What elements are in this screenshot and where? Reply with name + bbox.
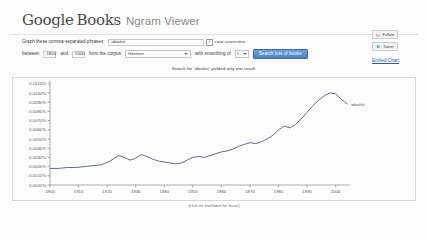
series-label[interactable]: idealist [351, 102, 365, 107]
x-axis-tick-label: 1900 [45, 189, 55, 194]
embed-chart-link[interactable]: Embed Chart [372, 58, 399, 63]
twitter-tweet-button[interactable]: 🐦 Tweet [372, 42, 398, 51]
y-axis-tick-label: 0.0040% [29, 146, 46, 151]
ngram-chart[interactable]: 0.0000%0.0010%0.0020%0.0030%0.0040%0.005… [10, 75, 418, 203]
g-plus-icon: g+ [376, 32, 381, 37]
header-divider [10, 34, 418, 35]
y-axis-tick-label: 0.0080% [29, 109, 46, 114]
smoothing-label: with smoothing of [195, 52, 231, 57]
smoothing-select-value: 1 [237, 52, 239, 56]
y-axis-tick-label: 0.0000% [29, 183, 46, 188]
x-axis-tick-label: 1910 [74, 189, 84, 194]
y-axis-tick-label: 0.0030% [29, 155, 46, 160]
y-axis-tick-label: 0.0060% [29, 127, 46, 132]
y-axis-tick-label: 0.0020% [29, 164, 46, 169]
query-form: Graph these comma-separated phrases: ide… [10, 39, 418, 59]
y-axis-tick-label: 0.0090% [29, 100, 46, 105]
result-notice: Search for "idealist" yielded only one r… [10, 66, 418, 71]
options-row: between 1800 and 2000 from the corpus Ge… [22, 49, 418, 59]
case-insensitive-control[interactable]: ✓ case-insensitive [206, 39, 246, 46]
chevron-down-icon [243, 53, 247, 55]
smoothing-select[interactable]: 1 [235, 50, 249, 58]
product-title: Ngram Viewer [126, 15, 200, 27]
phrase-row: Graph these comma-separated phrases: ide… [22, 39, 418, 46]
x-axis-tick-label: 1950 [188, 189, 198, 194]
x-axis-tick-label: 1970 [245, 189, 255, 194]
case-insensitive-checkbox[interactable]: ✓ [206, 39, 213, 46]
year-start-input[interactable]: 1800 [43, 51, 56, 58]
x-axis-tick-label: 1960 [217, 189, 227, 194]
x-axis-tick-label: 1940 [160, 189, 170, 194]
between-label: between [22, 52, 39, 57]
x-axis-tick-label: 2000 [331, 189, 341, 194]
masthead: GoogleBooks Ngram Viewer [10, 8, 418, 34]
chart-svg[interactable]: 0.0000%0.0010%0.0020%0.0030%0.0040%0.005… [10, 75, 418, 201]
corpus-select-value: German [128, 52, 144, 56]
logo-books-text: Books [77, 11, 121, 29]
twitter-bird-icon: 🐦 [376, 44, 381, 49]
y-axis-tick-label: 0.0100% [29, 91, 46, 96]
google-plus-follow-button[interactable]: g+ Follow [372, 30, 398, 39]
y-axis-tick-label: 0.0110% [29, 81, 46, 86]
google-books-logo[interactable]: GoogleBooks [22, 11, 121, 29]
x-axis-tick-label: 1920 [102, 189, 112, 194]
x-axis-tick-label: 1980 [274, 189, 284, 194]
x-axis-tick-label: 1930 [131, 189, 141, 194]
y-axis-tick-label: 0.0070% [29, 118, 46, 123]
x-axis-tick-label: 1990 [302, 189, 312, 194]
y-axis-tick-label: 0.0050% [29, 137, 46, 142]
corpus-select[interactable]: German [125, 50, 191, 58]
tweet-label: Tweet [383, 44, 394, 49]
chevron-down-icon [184, 53, 188, 55]
logo-google-text: Google [22, 11, 74, 29]
ngram-viewer-page: GoogleBooks Ngram Viewer Graph these com… [0, 0, 428, 241]
case-insensitive-label: case-insensitive [215, 40, 246, 44]
y-axis-tick-label: 0.0010% [29, 173, 46, 178]
chart-line-idealist[interactable] [50, 93, 347, 168]
search-button[interactable]: Search lots of books [253, 49, 308, 59]
phrase-label: Graph these comma-separated phrases: [22, 40, 104, 45]
and-label: and [60, 52, 68, 57]
chart-caption: (click on line/label for focus) [10, 203, 418, 208]
follow-label: Follow [383, 32, 395, 37]
right-rail: g+ Follow 🐦 Tweet Embed Chart [372, 30, 418, 63]
year-end-input[interactable]: 2000 [72, 51, 85, 58]
corpus-label: from the corpus [89, 52, 121, 57]
phrase-input[interactable]: idealist [108, 39, 204, 46]
